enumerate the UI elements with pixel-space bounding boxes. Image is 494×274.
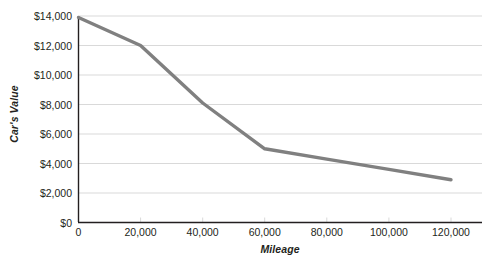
x-tick-label: 20,000	[125, 226, 157, 238]
gridlines	[79, 16, 483, 193]
x-axis-title: Mileage	[78, 243, 482, 255]
x-tick-label: 0	[76, 226, 82, 238]
x-tick-label: 80,000	[311, 226, 343, 238]
x-tick-label: 120,000	[432, 226, 470, 238]
x-tick-label: 100,000	[370, 226, 408, 238]
x-axis-ticks	[79, 218, 452, 223]
car-value-line-chart: Car's Value $0$2,000$4,000$6,000$8,000$1…	[0, 0, 494, 274]
x-tick-label: 60,000	[249, 226, 281, 238]
car-value-line	[79, 18, 452, 180]
x-tick-label: 40,000	[187, 226, 219, 238]
plot-area	[0, 0, 494, 274]
